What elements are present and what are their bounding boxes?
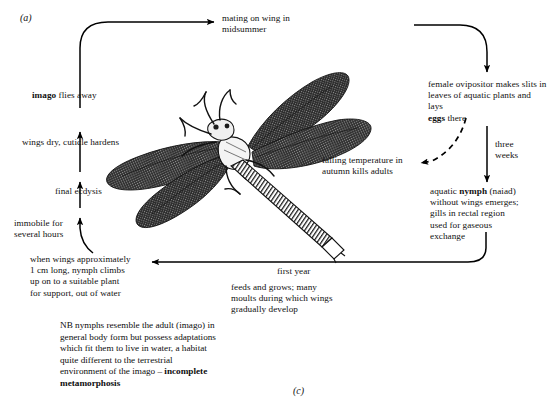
label-three-weeks: three weeks	[495, 139, 518, 161]
note-line-4: quite different to the terrestrial	[60, 355, 320, 367]
arrow-climb-to-immobile	[80, 218, 93, 253]
label-ovipositor-text: female ovipositor makes slits in leaves …	[428, 79, 546, 111]
dragonfly-head	[208, 119, 234, 140]
note-line-1: NB nymphs resemble the adult (imago) in	[60, 320, 320, 332]
label-falling-temperature: falling temperature in autumn kills adul…	[322, 155, 403, 177]
label-eggs-bold: eggs	[428, 113, 445, 123]
note-line-5: environment of the imago – incomplete	[60, 366, 320, 378]
note-line-3: which fit them to live in water, a habit…	[60, 343, 320, 355]
note-line-5-bold: incomplete	[164, 366, 207, 376]
label-nymph-bold: nymph	[459, 186, 487, 196]
dragonfly-legs	[180, 90, 274, 194]
note-line-5-plain: environment of the imago –	[60, 366, 164, 376]
wing-lower-left	[136, 156, 230, 228]
label-nymph-prefix: aquatic	[430, 186, 459, 196]
note-line-2: general body form but possess adaptation…	[60, 332, 320, 344]
wing-upper-right	[248, 73, 349, 153]
figure-canvas: (a) (c) mating on wing in midsummer fema…	[0, 0, 553, 406]
arrow-mating-to-ovipositor	[414, 25, 487, 72]
label-when-wings-climb: when wings approximately 1 cm long, nymp…	[30, 254, 131, 299]
arrow-autumn-kills-adults-dashed	[421, 118, 466, 163]
label-immobile: immobile for several hours	[14, 218, 63, 240]
label-mating-on-wing: mating on wing in midsummer	[222, 13, 290, 35]
label-final-ecdysis: final ecdysis	[55, 186, 102, 197]
label-first-year: first year	[277, 266, 310, 277]
note-line-6: metamorphosis	[60, 378, 320, 390]
label-eggs-tail: there	[445, 113, 466, 123]
panel-label-a: (a)	[20, 12, 32, 23]
label-feeds-and-grows: feeds and grows; many moults during whic…	[231, 282, 333, 316]
label-imago-rest: flies away	[56, 90, 96, 100]
wing-upper-left	[107, 142, 226, 190]
label-imago-flies-away: imago flies away	[32, 79, 97, 101]
label-female-ovipositor: female ovipositor makes slits in leaves …	[428, 79, 548, 124]
label-aquatic-nymph: aquatic nymph (naiad) without wings emer…	[430, 186, 548, 242]
note-incomplete-metamorphosis: NB nymphs resemble the adult (imago) in …	[60, 320, 320, 390]
dragonfly-abdomen	[231, 160, 332, 247]
arrow-imago-to-mating	[80, 22, 214, 108]
label-wings-dry: wings dry, cuticle hardens	[22, 137, 119, 148]
dragonfly-thorax	[218, 137, 250, 169]
label-imago-bold: imago	[32, 90, 56, 100]
dragonfly-abdomen-tip	[322, 238, 344, 259]
